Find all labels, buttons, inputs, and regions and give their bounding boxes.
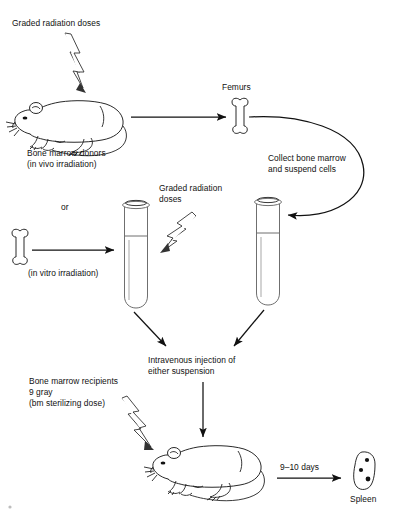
label-nine-ten-days: 9–10 days xyxy=(280,462,319,473)
test-tube-icon-right xyxy=(255,197,282,305)
label-graded-radiation-doses-top: Graded radiation doses xyxy=(12,18,100,29)
label-in-vitro-irradiation: (in vitro irradiation) xyxy=(28,268,98,279)
label-bm-sterilizing-dose: (bm sterilizing dose) xyxy=(29,398,105,409)
radiation-bolt-mid xyxy=(160,212,196,253)
label-either-suspension: either suspension xyxy=(148,366,215,377)
label-nine-gray: 9 gray xyxy=(29,387,53,398)
diagram-canvas xyxy=(0,0,393,516)
label-bone-marrow-recipients: Bone marrow recipients xyxy=(29,376,118,387)
label-femurs: Femurs xyxy=(222,82,251,93)
spleen-icon xyxy=(354,452,375,490)
mouse-icon-recipient xyxy=(144,446,264,501)
label-in-vivo-irradiation: (in vivo irradiation) xyxy=(27,159,96,170)
label-or: or xyxy=(61,202,69,213)
label-graded-doses-mid-2: doses xyxy=(159,194,182,205)
page-speck xyxy=(8,505,11,508)
arrow-left-tube-to-injection xyxy=(134,312,166,346)
label-bone-marrow-donors: Bone marrow donors xyxy=(27,148,106,159)
label-suspend-cells: and suspend cells xyxy=(268,164,336,175)
label-collect-bone-marrow: Collect bone marrow xyxy=(268,153,346,164)
label-intravenous-injection: Intravenous injection of xyxy=(148,355,235,366)
arrow-right-tube-to-injection xyxy=(234,310,264,346)
label-graded-radiation-mid: Graded radiation xyxy=(159,183,222,194)
label-spleen: Spleen xyxy=(350,494,376,505)
bone-icon-femur-top xyxy=(232,98,248,133)
test-tube-icon-left xyxy=(123,200,150,308)
radiation-bolt-bottom xyxy=(122,396,154,450)
radiation-bolt-top xyxy=(65,33,86,93)
spleen-colony-assay-figure: Graded radiation doses Bone marrow donor… xyxy=(0,0,393,516)
bone-icon-femur-left xyxy=(12,229,28,264)
